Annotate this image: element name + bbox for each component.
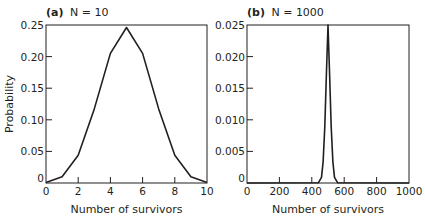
panel-b-title: (b) N = 1000 [247, 6, 324, 19]
y-tick-label: 0.015 [215, 82, 245, 94]
x-tick-label: 400 [302, 185, 322, 197]
x-tick-label: 6 [139, 185, 146, 197]
y-tick-label: 0.20 [21, 51, 44, 63]
x-tick-label: 1000 [396, 185, 423, 197]
x-tick-label: 0 [43, 185, 50, 197]
panel-a-x-ticks: 0246810 [43, 177, 214, 197]
panel-a-line [46, 28, 207, 183]
panel-a-x-label: Number of survivors [70, 203, 182, 216]
panel-b-line [247, 25, 409, 183]
y-tick-label: 0.005 [215, 145, 245, 157]
y-tick-label: 0.15 [21, 82, 44, 94]
panel-b-x-label: Number of survivors [272, 203, 384, 216]
y-tick-label: 0 [37, 172, 44, 184]
y-tick-label: 0 [238, 172, 245, 184]
panel-a-y-ticks: 00.050.100.150.200.25 [21, 19, 52, 184]
panel-a-title: (a) N = 10 [46, 6, 108, 19]
x-tick-label: 800 [367, 185, 387, 197]
y-tick-label: 0.020 [215, 51, 245, 63]
panel-a: (a) N = 10 00.050.100.150.200.25 0246810… [3, 6, 214, 216]
x-tick-label: 600 [334, 185, 354, 197]
y-tick-label: 0.10 [21, 114, 44, 126]
x-tick-label: 0 [244, 185, 251, 197]
y-tick-label: 0.025 [215, 19, 245, 31]
x-tick-label: 8 [171, 185, 178, 197]
panel-b: (b) N = 1000 00.0050.0100.0150.0200.025 … [215, 6, 422, 216]
x-tick-label: 200 [269, 185, 289, 197]
panel-a-frame [46, 25, 207, 183]
panel-b-x-ticks: 02004006008001000 [244, 177, 423, 197]
x-tick-label: 2 [75, 185, 82, 197]
panel-a-y-label: Probability [3, 74, 16, 133]
y-tick-label: 0.010 [215, 114, 245, 126]
x-tick-label: 4 [107, 185, 114, 197]
chart-figure: (a) N = 10 00.050.100.150.200.25 0246810… [0, 0, 425, 220]
y-tick-label: 0.05 [21, 145, 44, 157]
y-tick-label: 0.25 [21, 19, 44, 31]
x-tick-label: 10 [200, 185, 213, 197]
